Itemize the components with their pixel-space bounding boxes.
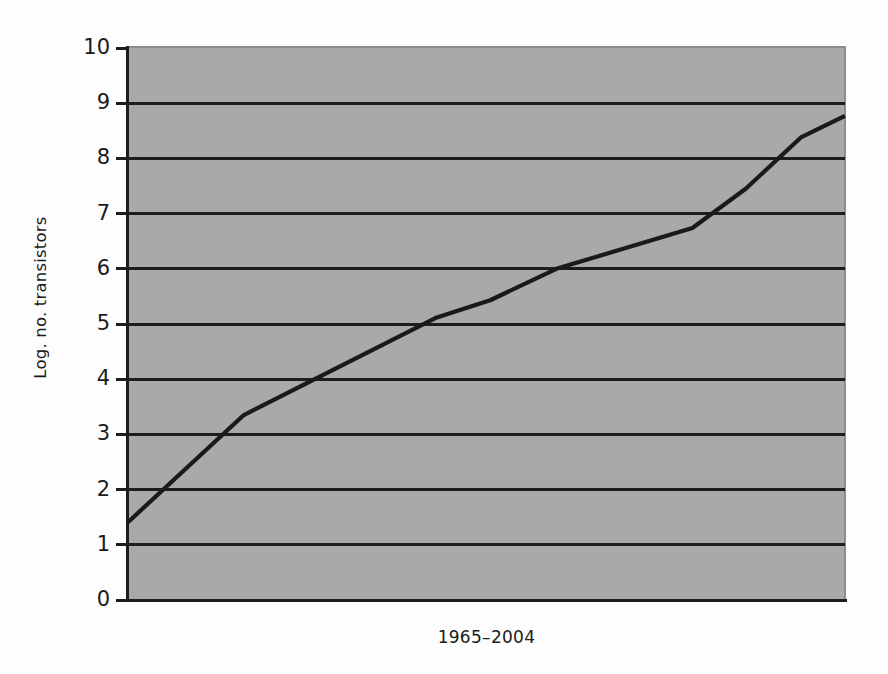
gridline — [128, 267, 845, 270]
y-axis-tick-label: 6 — [10, 258, 110, 279]
y-axis-tick-label: 9 — [10, 92, 110, 113]
y-axis-tick-label: 7 — [10, 203, 110, 224]
gridline — [128, 433, 845, 436]
y-axis-tick-label: 2 — [10, 479, 110, 500]
x-axis-title: 1965–2004 — [128, 627, 845, 647]
y-axis-tick-label: 0 — [10, 589, 110, 610]
x-axis-spine — [126, 599, 847, 602]
chart-page: 012345678910 Log. no. transistors 1965–2… — [0, 0, 888, 674]
gridline — [128, 378, 845, 381]
y-axis-tick-label: 4 — [10, 368, 110, 389]
y-axis-tick-label: 3 — [10, 423, 110, 444]
y-axis-tick-label: 8 — [10, 147, 110, 168]
y-axis-tick-label: 10 — [10, 37, 110, 58]
y-axis-spine — [126, 46, 129, 602]
gridline — [128, 157, 845, 160]
gridline — [128, 212, 845, 215]
y-axis-tick-labels-group: 012345678910 — [0, 0, 110, 674]
y-axis-title: Log. no. transistors — [31, 188, 50, 408]
y-axis-tick-label: 5 — [10, 313, 110, 334]
gridline — [128, 488, 845, 491]
plot-top-border — [128, 46, 846, 48]
figure-canvas: 012345678910 Log. no. transistors 1965–2… — [0, 0, 888, 674]
gridline — [128, 323, 845, 326]
gridline — [128, 102, 845, 105]
gridline — [128, 543, 845, 546]
y-axis-tick-label: 1 — [10, 534, 110, 555]
